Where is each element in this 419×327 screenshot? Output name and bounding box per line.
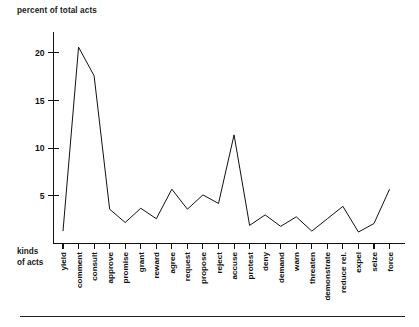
x-tick-label: demonstrate: [323, 252, 332, 301]
x-tick-label: comment: [75, 252, 84, 288]
x-axis-title-line-2: of acts: [17, 258, 43, 269]
x-tick-label: accuse: [230, 252, 239, 280]
x-tick-label: warn: [292, 252, 301, 272]
x-tick-label: reject: [215, 252, 224, 274]
x-tick-label: deny: [261, 252, 270, 271]
chart-figure: percent of total acts 5101520 yieldcomme…: [0, 0, 419, 327]
x-tick-label: agree: [168, 252, 177, 274]
x-tick-label: force: [386, 252, 395, 272]
x-axis-title: kinds of acts: [17, 247, 43, 268]
y-tick-group: 5101520: [35, 48, 59, 201]
y-tick-label: 10: [35, 143, 45, 153]
x-tick-label: threaten: [308, 252, 317, 284]
x-tick-label-group: yieldcommentconsultapprovepromisegrantre…: [59, 252, 395, 301]
x-tick-label: reduce rel.: [339, 252, 348, 293]
x-tick-label: yield: [59, 252, 68, 271]
data-series-group: [63, 47, 390, 232]
x-tick-label: promise: [121, 252, 130, 284]
x-tick-label: reward: [152, 252, 161, 279]
x-tick-label: request: [183, 252, 192, 282]
footer-divider: [20, 316, 405, 317]
x-tick-label: grant: [137, 252, 146, 273]
chart-axes: [54, 32, 406, 244]
y-tick-label: 15: [35, 96, 45, 106]
y-tick-label: 20: [35, 48, 45, 58]
x-tick-group: [63, 244, 390, 250]
y-tick-label: 5: [40, 191, 45, 201]
x-tick-label: expel: [354, 252, 363, 273]
x-tick-label: protest: [246, 252, 255, 280]
line-chart-plot: 5101520 yieldcommentconsultapprovepromis…: [0, 0, 419, 327]
x-tick-label: approve: [106, 252, 115, 284]
series-line-percent-of-total-acts: [63, 47, 390, 232]
x-tick-label: demand: [277, 252, 286, 283]
x-tick-label: seize: [370, 252, 379, 272]
x-tick-label: propose: [199, 252, 208, 284]
x-axis-title-line-1: kinds: [17, 247, 43, 258]
x-tick-label: consult: [90, 252, 99, 281]
